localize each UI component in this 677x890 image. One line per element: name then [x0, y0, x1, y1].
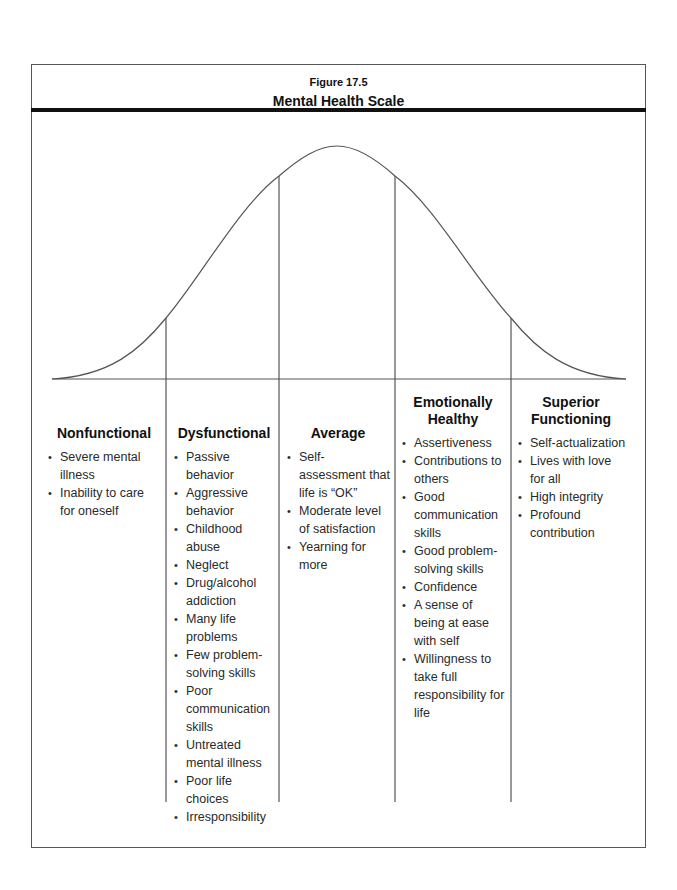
column-emotionally-healthy: Emotionally Healthy Assertiveness Contri…: [400, 394, 506, 722]
list-item: Willingness to take full responsibility …: [400, 650, 506, 722]
list-item: High integrity: [516, 488, 626, 506]
bell-curve: [52, 146, 626, 379]
list-item: Moderate level of satisfaction: [285, 502, 391, 538]
list-item: Passive behavior: [172, 448, 276, 484]
list-item: Good problem-solving skills: [400, 542, 506, 578]
column-heading: Average: [285, 425, 391, 442]
column-heading: Superior Functioning: [516, 394, 626, 428]
list-item: Yearning for more: [285, 538, 391, 574]
list-item: Lives with love for all: [516, 452, 626, 488]
list-item: Inability to care for oneself: [46, 484, 162, 520]
column-heading: Emotionally Healthy: [400, 394, 506, 428]
list-item: Irresponsibility: [172, 808, 276, 826]
column-superior-functioning: Superior Functioning Self-actualization …: [516, 394, 626, 542]
column-heading: Nonfunctional: [46, 425, 162, 442]
list-item: Few problem-solving skills: [172, 646, 276, 682]
list-item: Severe mental illness: [46, 448, 162, 484]
column-heading: Dysfunctional: [172, 425, 276, 442]
list-item: Assertiveness: [400, 434, 506, 452]
list-item: A sense of being at ease with self: [400, 596, 506, 650]
list-item: Contributions to others: [400, 452, 506, 488]
column-dysfunctional: Dysfunctional Passive behavior Aggressiv…: [172, 425, 276, 826]
column-average: Average Self-assessment that life is “OK…: [285, 425, 391, 574]
list-item: Good communication skills: [400, 488, 506, 542]
column-nonfunctional: Nonfunctional Severe mental illness Inab…: [46, 425, 162, 520]
list-item: Self-assessment that life is “OK”: [285, 448, 391, 502]
list-item: Profound contribution: [516, 506, 626, 542]
list-item: Self-actualization: [516, 434, 626, 452]
list-item: Many life problems: [172, 610, 276, 646]
list-item: Childhood abuse: [172, 520, 276, 556]
list-item: Poor life choices: [172, 772, 276, 808]
list-item: Neglect: [172, 556, 276, 574]
list-item: Poor communication skills: [172, 682, 276, 736]
list-item: Untreated mental illness: [172, 736, 276, 772]
list-item: Aggressive behavior: [172, 484, 276, 520]
list-item: Drug/alcohol addiction: [172, 574, 276, 610]
list-item: Confidence: [400, 578, 506, 596]
